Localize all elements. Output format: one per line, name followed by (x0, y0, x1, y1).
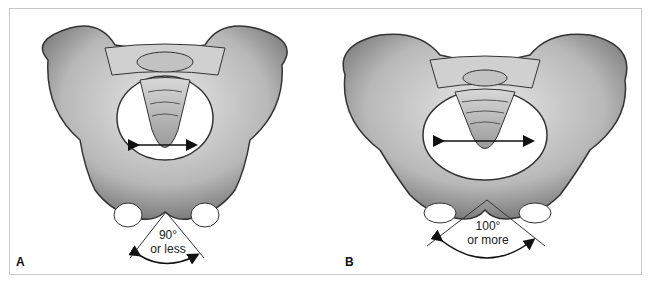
panel-label-b: B (345, 255, 354, 269)
angle-value-b: 100° (460, 219, 516, 233)
angle-qualifier-b: or more (460, 233, 516, 247)
angle-label-b: 100° or more (460, 219, 516, 247)
angle-qualifier-a: or less (145, 242, 191, 256)
angle-label-a: 90° or less (145, 228, 191, 256)
pelvis-illustrations (0, 0, 651, 283)
angle-value-a: 90° (145, 228, 191, 242)
panel-label-a: A (16, 255, 25, 269)
